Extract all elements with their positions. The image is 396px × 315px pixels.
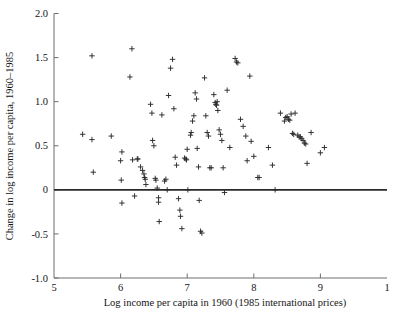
y-tick-label-4: 1.0: [35, 96, 48, 107]
y-tick-label-2: 0: [43, 184, 48, 195]
x-tick-label-2: 7: [185, 282, 190, 293]
y-tick-label-6: 2.0: [35, 8, 48, 19]
x-tick-label-4: 9: [318, 282, 323, 293]
x-axis-title: Log income per capita in 1960 (1985 inte…: [104, 297, 347, 309]
y-tick-label-5: 1.5: [35, 52, 48, 63]
y-tick-label-3: 0.5: [35, 140, 48, 151]
y-axis-title: Change in log income per capita, 1960–19…: [4, 52, 15, 241]
scatter-plot-figure: -1.0-0.500.51.01.52.0567891 Log income p…: [0, 0, 396, 315]
plot-background: [0, 0, 396, 315]
y-tick-label-1: -0.5: [31, 229, 48, 240]
x-tick-label-1: 6: [118, 282, 123, 293]
scatter-plot-canvas: -1.0-0.500.51.01.52.0567891 Log income p…: [0, 0, 396, 315]
x-tick-label-5: 1: [384, 282, 389, 293]
x-tick-label-3: 8: [251, 282, 256, 293]
y-tick-label-0: -1.0: [31, 273, 48, 284]
x-tick-label-0: 5: [51, 282, 56, 293]
